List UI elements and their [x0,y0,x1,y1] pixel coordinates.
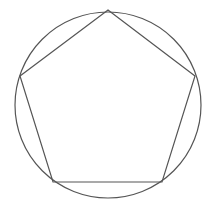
inscribed-pentagon-diagram [0,0,211,222]
circumscribed-circle [15,12,201,198]
